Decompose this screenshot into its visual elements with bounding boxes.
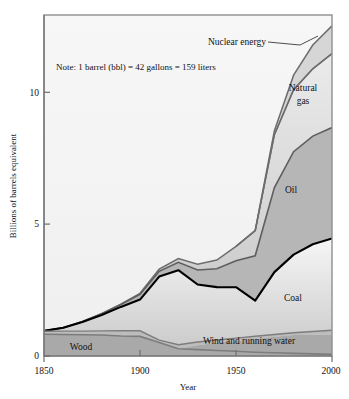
chart-figure: 10 5 0 1850 1900 1950 2000 Year Billions… xyxy=(0,0,349,399)
x-tick-label-1950: 1950 xyxy=(227,366,246,376)
wind-and-running-water-label: Wind and running water xyxy=(203,336,296,346)
nuclear-energy-label: Nuclear energy xyxy=(208,37,266,47)
x-tick-label-1900: 1900 xyxy=(131,366,150,376)
x-axis-title: Year xyxy=(180,382,197,392)
oil-label: Oil xyxy=(285,185,298,195)
y-tick-label-10: 10 xyxy=(30,88,40,98)
y-tick-label-5: 5 xyxy=(34,219,39,229)
x-tick-label-2000: 2000 xyxy=(322,366,341,376)
energy-consumption-area-chart: 10 5 0 1850 1900 1950 2000 Year Billions… xyxy=(0,0,349,399)
y-axis-title: Billions of barrels equivalent xyxy=(8,133,18,238)
wood-label: Wood xyxy=(70,342,93,352)
coal-label: Coal xyxy=(284,293,302,303)
note-annotation: Note: 1 barrel (bbl) = 42 gallons = 159 … xyxy=(56,62,216,72)
natural-gas-label-line2: gas xyxy=(297,96,310,106)
x-tick-label-1850: 1850 xyxy=(35,366,54,376)
y-tick-label-0: 0 xyxy=(34,351,39,361)
natural-gas-label-line1: Natural xyxy=(289,83,318,93)
